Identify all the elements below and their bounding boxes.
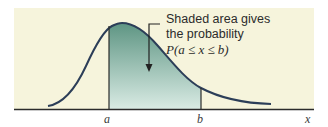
axis-label-b: b (197, 112, 203, 127)
probability-density-figure: Shaded area gives the probability P(a ≤ … (0, 0, 328, 127)
callout-line-2: the probability (166, 27, 270, 42)
axis-label-a: a (104, 112, 110, 127)
axis-label-x: x (305, 112, 310, 127)
probability-formula: P(a ≤ x ≤ b) (166, 42, 270, 57)
callout-line-1: Shaded area gives (166, 12, 270, 27)
density-plot (0, 0, 328, 127)
callout-annotation: Shaded area gives the probability P(a ≤ … (166, 12, 270, 57)
